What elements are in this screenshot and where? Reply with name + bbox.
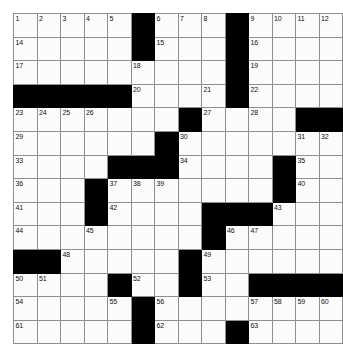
crossword-cell[interactable]: 48: [61, 249, 85, 273]
crossword-cell[interactable]: [202, 61, 226, 85]
crossword-cell[interactable]: [108, 226, 132, 250]
crossword-cell[interactable]: [37, 202, 61, 226]
crossword-cell[interactable]: 58: [272, 297, 296, 321]
crossword-cell[interactable]: 62: [155, 320, 179, 344]
crossword-cell[interactable]: [249, 131, 273, 155]
crossword-cell[interactable]: [155, 249, 179, 273]
crossword-cell[interactable]: 15: [155, 37, 179, 61]
crossword-cell[interactable]: [202, 131, 226, 155]
crossword-cell[interactable]: [37, 320, 61, 344]
crossword-cell[interactable]: [272, 37, 296, 61]
crossword-cell[interactable]: [272, 320, 296, 344]
crossword-cell[interactable]: [131, 108, 155, 132]
crossword-cell[interactable]: 1: [14, 14, 38, 38]
crossword-cell[interactable]: [61, 297, 85, 321]
crossword-cell[interactable]: 22: [249, 84, 273, 108]
crossword-cell[interactable]: [37, 179, 61, 203]
crossword-cell[interactable]: 26: [84, 108, 108, 132]
crossword-cell[interactable]: [202, 297, 226, 321]
crossword-cell[interactable]: [225, 297, 249, 321]
crossword-cell[interactable]: [61, 179, 85, 203]
crossword-cell[interactable]: [319, 84, 343, 108]
crossword-cell[interactable]: 11: [296, 14, 320, 38]
crossword-cell[interactable]: [296, 202, 320, 226]
crossword-cell[interactable]: 28: [249, 108, 273, 132]
crossword-cell[interactable]: [225, 108, 249, 132]
crossword-cell[interactable]: [225, 273, 249, 297]
crossword-cell[interactable]: 53: [202, 273, 226, 297]
crossword-cell[interactable]: 40: [296, 179, 320, 203]
crossword-cell[interactable]: [178, 297, 202, 321]
crossword-cell[interactable]: 7: [178, 14, 202, 38]
crossword-cell[interactable]: 50: [14, 273, 38, 297]
crossword-cell[interactable]: [61, 131, 85, 155]
crossword-cell[interactable]: [178, 84, 202, 108]
crossword-cell[interactable]: [225, 155, 249, 179]
crossword-cell[interactable]: [61, 202, 85, 226]
crossword-cell[interactable]: 30: [178, 131, 202, 155]
crossword-cell[interactable]: [61, 155, 85, 179]
crossword-cell[interactable]: [249, 155, 273, 179]
crossword-cell[interactable]: [37, 131, 61, 155]
crossword-cell[interactable]: 60: [319, 297, 343, 321]
crossword-cell[interactable]: [178, 37, 202, 61]
crossword-cell[interactable]: [178, 226, 202, 250]
crossword-cell[interactable]: [108, 108, 132, 132]
crossword-cell[interactable]: 46: [225, 226, 249, 250]
crossword-cell[interactable]: 32: [319, 131, 343, 155]
crossword-cell[interactable]: 56: [155, 297, 179, 321]
crossword-cell[interactable]: [202, 37, 226, 61]
crossword-cell[interactable]: [178, 61, 202, 85]
crossword-cell[interactable]: [272, 249, 296, 273]
crossword-cell[interactable]: 23: [14, 108, 38, 132]
crossword-cell[interactable]: 37: [108, 179, 132, 203]
crossword-cell[interactable]: 51: [37, 273, 61, 297]
crossword-cell[interactable]: [296, 320, 320, 344]
crossword-cell[interactable]: [37, 61, 61, 85]
crossword-cell[interactable]: 29: [14, 131, 38, 155]
crossword-cell[interactable]: [37, 37, 61, 61]
crossword-cell[interactable]: 45: [84, 226, 108, 250]
crossword-cell[interactable]: 12: [319, 14, 343, 38]
crossword-cell[interactable]: [61, 61, 85, 85]
crossword-cell[interactable]: 19: [249, 61, 273, 85]
crossword-cell[interactable]: [61, 273, 85, 297]
crossword-cell[interactable]: 24: [37, 108, 61, 132]
crossword-cell[interactable]: [84, 249, 108, 273]
crossword-cell[interactable]: [61, 226, 85, 250]
crossword-cell[interactable]: 34: [178, 155, 202, 179]
crossword-cell[interactable]: 61: [14, 320, 38, 344]
crossword-cell[interactable]: 10: [272, 14, 296, 38]
crossword-cell[interactable]: [272, 131, 296, 155]
crossword-cell[interactable]: 39: [155, 179, 179, 203]
crossword-cell[interactable]: [296, 226, 320, 250]
crossword-cell[interactable]: [155, 273, 179, 297]
crossword-cell[interactable]: [61, 37, 85, 61]
crossword-cell[interactable]: 47: [249, 226, 273, 250]
crossword-cell[interactable]: 6: [155, 14, 179, 38]
crossword-cell[interactable]: [84, 273, 108, 297]
crossword-cell[interactable]: [131, 202, 155, 226]
crossword-cell[interactable]: [319, 155, 343, 179]
crossword-cell[interactable]: [319, 202, 343, 226]
crossword-cell[interactable]: [155, 61, 179, 85]
crossword-cell[interactable]: [131, 131, 155, 155]
crossword-cell[interactable]: 14: [14, 37, 38, 61]
crossword-cell[interactable]: 41: [14, 202, 38, 226]
crossword-cell[interactable]: [272, 84, 296, 108]
crossword-cell[interactable]: [108, 249, 132, 273]
crossword-cell[interactable]: [84, 155, 108, 179]
crossword-cell[interactable]: 55: [108, 297, 132, 321]
crossword-cell[interactable]: 16: [249, 37, 273, 61]
crossword-cell[interactable]: [84, 131, 108, 155]
crossword-cell[interactable]: 54: [14, 297, 38, 321]
crossword-cell[interactable]: [296, 37, 320, 61]
crossword-cell[interactable]: [84, 61, 108, 85]
crossword-cell[interactable]: [202, 155, 226, 179]
crossword-cell[interactable]: 52: [131, 273, 155, 297]
crossword-cell[interactable]: [296, 249, 320, 273]
crossword-cell[interactable]: 17: [14, 61, 38, 85]
crossword-cell[interactable]: 20: [131, 84, 155, 108]
crossword-cell[interactable]: [249, 249, 273, 273]
crossword-cell[interactable]: 42: [108, 202, 132, 226]
